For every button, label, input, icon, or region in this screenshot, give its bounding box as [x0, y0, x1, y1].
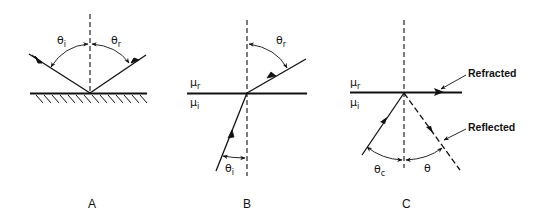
angle-arc-theta-i: [223, 156, 245, 158]
label-theta-i: θi: [225, 162, 234, 177]
label-theta-c: θc: [374, 163, 385, 178]
panel-caption-a: A: [88, 197, 96, 211]
label-mu-r: μr: [350, 76, 361, 91]
incident-ray: [362, 93, 404, 155]
mirror-hatching: [36, 95, 147, 103]
panel-a: θi θr A: [29, 14, 147, 211]
label-theta-r: θr: [111, 34, 122, 49]
label-mu-i: μi: [350, 96, 359, 111]
arrow-icon: [32, 55, 42, 63]
label-mu-r: μr: [190, 76, 201, 91]
label-mu-i: μi: [190, 96, 199, 111]
panel-caption-b: B: [243, 197, 251, 211]
label-theta-i: θi: [57, 34, 66, 49]
panel-caption-c: C: [402, 197, 411, 211]
leader-line-refracted: [441, 75, 466, 89]
optics-diagram: θi θr A θr θi μr μi B θ: [0, 0, 540, 224]
angle-arc-theta-r: [249, 44, 287, 68]
angle-arc-theta: [406, 148, 442, 160]
angle-arc-theta-c: [367, 147, 402, 160]
label-theta: θ: [424, 162, 431, 175]
arrow-icon: [380, 117, 387, 124]
label-refracted: Refracted: [468, 67, 516, 79]
panel-c: θc θ μr μi Refracted Reflected C: [350, 20, 516, 211]
label-theta-r: θr: [276, 34, 287, 49]
panel-b: θr θi μr μi B: [187, 20, 307, 211]
angle-arc-theta-i: [51, 44, 88, 67]
label-reflected: Reflected: [468, 121, 515, 133]
arrow-icon: [228, 130, 234, 138]
leader-line-reflected: [444, 129, 466, 140]
arrow-icon: [426, 126, 433, 133]
